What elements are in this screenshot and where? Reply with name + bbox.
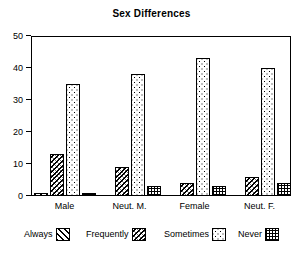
legend-swatch-grid-crosshatch (265, 228, 279, 241)
bar (196, 58, 210, 196)
y-tick-label: 40 (13, 63, 23, 73)
bar (212, 186, 226, 196)
legend-label: Frequently (86, 229, 129, 240)
bar (131, 74, 145, 196)
bar (82, 193, 96, 196)
bar-group (34, 36, 96, 196)
y-tick-label: 20 (13, 127, 23, 137)
chart-legend: AlwaysFrequentlySometimesNever (24, 226, 286, 244)
bar (34, 193, 48, 196)
y-tick-label: 0 (18, 191, 23, 201)
bar (277, 183, 291, 196)
bar (115, 167, 129, 196)
legend-label: Never (238, 229, 262, 240)
legend-item: Sometimes (164, 226, 226, 242)
y-tick-label: 50 (13, 31, 23, 41)
bar (261, 68, 275, 196)
legend-item: Always (24, 226, 70, 242)
bar (66, 84, 80, 196)
legend-label: Sometimes (164, 229, 209, 240)
bar-chart: Sex Differences 01020304050 MaleNeut. M.… (0, 0, 303, 255)
x-tick-label: Male (35, 201, 95, 212)
x-tick-label: Neut. M. (100, 201, 160, 212)
legend-swatch-dense-diagonal-hatch (132, 228, 146, 241)
y-tick-label: 30 (13, 95, 23, 105)
y-tick-label: 10 (13, 159, 23, 169)
bar-group (164, 36, 226, 196)
bar (50, 154, 64, 196)
legend-swatch-dots (212, 228, 226, 241)
x-axis: MaleNeut. M.FemaleNeut. F. (31, 201, 291, 217)
legend-swatch-diagonal-hatch (56, 228, 70, 241)
bars-layer (31, 36, 291, 196)
x-tick-label: Neut. F. (230, 201, 290, 212)
bar-group (99, 36, 161, 196)
bar (180, 183, 194, 196)
bar-group (229, 36, 291, 196)
legend-item: Never (238, 226, 279, 242)
legend-item: Frequently (86, 226, 146, 242)
y-axis: 01020304050 (0, 30, 31, 202)
chart-title: Sex Differences (0, 8, 303, 19)
legend-label: Always (24, 229, 53, 240)
bar (245, 177, 259, 196)
x-tick-label: Female (165, 201, 225, 212)
bar (147, 186, 161, 196)
